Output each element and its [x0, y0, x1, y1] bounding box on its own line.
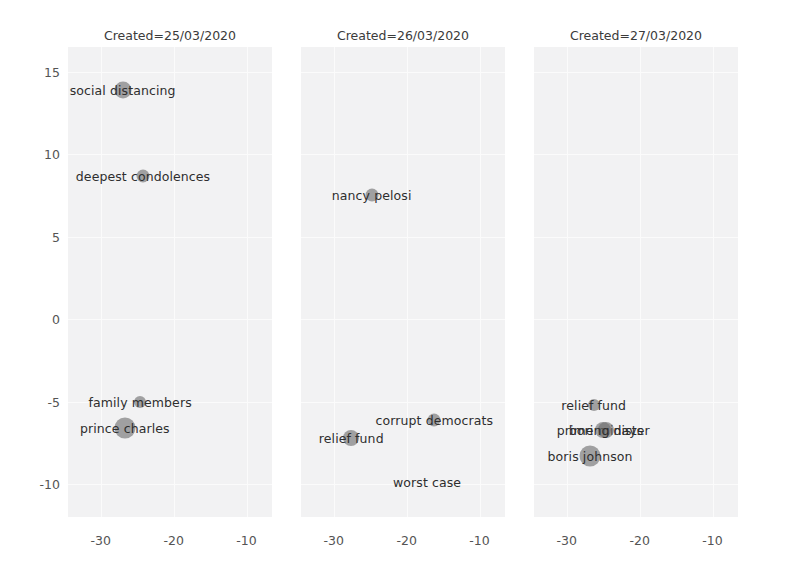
gridline-horizontal — [68, 319, 272, 320]
gridline-vertical — [480, 47, 481, 517]
scatter-point-label: deepest condolences — [76, 168, 210, 183]
x-axis-tick-label: -10 — [469, 533, 489, 548]
gridline-horizontal — [534, 484, 738, 485]
panel-title: Created=27/03/2020 — [534, 27, 738, 45]
scatter-panel: nancy pelosirelief fundcorrupt democrats… — [301, 47, 505, 517]
scatter-point-label: family members — [88, 394, 191, 409]
scatter-point-label: social distancing — [70, 82, 176, 97]
gridline-horizontal — [301, 402, 505, 403]
gridline-horizontal — [534, 154, 738, 155]
scatter-point-label: nancy pelosi — [332, 188, 412, 203]
scatter-panel: relief fundprime ministerboring daysbori… — [534, 47, 738, 517]
gridline-horizontal — [534, 319, 738, 320]
scatter-point-label: prince charles — [80, 420, 170, 435]
gridline-horizontal — [301, 319, 505, 320]
x-axis-tick-label: -30 — [557, 533, 577, 548]
scatter-facet-figure: 151050-5-10 Created=25/03/2020social dis… — [0, 0, 786, 585]
gridline-vertical — [567, 47, 568, 517]
x-axis-tick-label: -20 — [396, 533, 416, 548]
scatter-point-label: boring days — [569, 422, 644, 437]
scatter-panel: social distancingdeepest condolencesfami… — [68, 47, 272, 517]
gridline-horizontal — [301, 237, 505, 238]
x-axis-tick-label: -30 — [91, 533, 111, 548]
y-axis: 151050-5-10 — [0, 0, 60, 585]
scatter-point-label: corrupt democrats — [376, 412, 494, 427]
gridline-vertical — [174, 47, 175, 517]
gridline-horizontal — [534, 237, 738, 238]
x-axis-tick-label: -10 — [236, 533, 256, 548]
y-axis-tick-label: -10 — [18, 477, 60, 492]
gridline-vertical — [640, 47, 641, 517]
y-axis-tick-label: 15 — [18, 64, 60, 79]
scatter-point-label: worst case — [393, 475, 461, 490]
gridline-horizontal — [301, 154, 505, 155]
x-axis-tick-label: -10 — [702, 533, 722, 548]
x-axis-tick-label: -20 — [163, 533, 183, 548]
gridline-vertical — [334, 47, 335, 517]
y-axis-tick-label: -5 — [18, 394, 60, 409]
x-axis-tick-label: -30 — [324, 533, 344, 548]
gridline-horizontal — [301, 72, 505, 73]
gridline-horizontal — [68, 154, 272, 155]
scatter-point-label: relief fund — [319, 430, 384, 445]
scatter-point-label: boris johnson — [548, 448, 633, 463]
gridline-horizontal — [68, 484, 272, 485]
gridline-horizontal — [534, 72, 738, 73]
gridline-horizontal — [68, 237, 272, 238]
scatter-point-label: relief fund — [561, 397, 626, 412]
x-axis-tick-label: -20 — [629, 533, 649, 548]
panel-title: Created=25/03/2020 — [68, 27, 272, 45]
gridline-vertical — [407, 47, 408, 517]
gridline-horizontal — [68, 72, 272, 73]
gridline-vertical — [101, 47, 102, 517]
panel-title: Created=26/03/2020 — [301, 27, 505, 45]
y-axis-tick-label: 5 — [18, 229, 60, 244]
gridline-vertical — [247, 47, 248, 517]
y-axis-tick-label: 0 — [18, 312, 60, 327]
y-axis-tick-label: 10 — [18, 147, 60, 162]
gridline-vertical — [713, 47, 714, 517]
